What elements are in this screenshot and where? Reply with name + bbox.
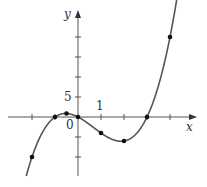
x-tick-label-1: 1 (96, 99, 104, 113)
origin-label: 0 (66, 118, 74, 132)
function-graph: x y 1 5 0 (0, 0, 207, 187)
y-axis-label: y (63, 7, 71, 21)
axes (8, 10, 197, 176)
x-axis-label: x (186, 120, 193, 134)
data-points (30, 35, 173, 160)
y-tick-label-5: 5 (64, 90, 72, 104)
cubic-curve (26, 0, 180, 176)
